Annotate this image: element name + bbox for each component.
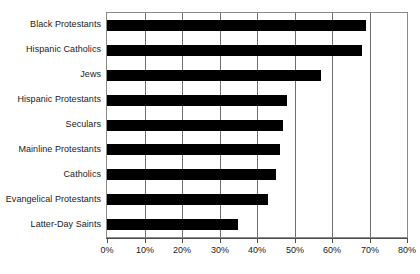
category-label: Seculars (0, 119, 101, 129)
category-label: Latter-Day Saints (0, 219, 101, 229)
bar-row (107, 187, 407, 212)
category-label: Hispanic Protestants (0, 94, 101, 104)
bar-row (107, 212, 407, 237)
x-axis-tick-label: 50% (275, 245, 315, 256)
bar (107, 169, 276, 180)
bar (107, 45, 362, 56)
x-axis-tick (370, 238, 371, 243)
x-axis-tick (407, 238, 408, 243)
bar-row (107, 63, 407, 88)
x-axis-tick (182, 238, 183, 243)
category-label: Hispanic Catholics (0, 44, 101, 54)
x-axis-tick-label: 10% (125, 245, 165, 256)
bar (107, 194, 268, 205)
x-axis-tick-label: 40% (237, 245, 277, 256)
bar-row (107, 113, 407, 138)
bar (107, 144, 280, 155)
x-axis-tick-label: 30% (200, 245, 240, 256)
bar-row (107, 38, 407, 63)
bar (107, 219, 238, 230)
x-axis-tick-label: 0% (87, 245, 127, 256)
x-axis-tick (107, 238, 108, 243)
category-label: Black Protestants (0, 19, 101, 29)
x-axis-tick (220, 238, 221, 243)
bar-row (107, 88, 407, 113)
category-label: Evangelical Protestants (0, 194, 101, 204)
x-axis-tick (257, 238, 258, 243)
bar (107, 95, 287, 106)
x-axis-tick-label: 80% (387, 245, 420, 256)
bar (107, 70, 321, 81)
bar-chart: Black Protestants Hispanic Catholics Jew… (0, 0, 420, 274)
x-axis-tick-label: 20% (162, 245, 202, 256)
x-axis-tick-label: 60% (312, 245, 352, 256)
plot-area (106, 12, 408, 238)
x-axis-tick-label: 70% (350, 245, 390, 256)
category-axis: Black Protestants Hispanic Catholics Jew… (0, 12, 101, 238)
x-axis-tick (332, 238, 333, 243)
bar-row (107, 13, 407, 38)
bar (107, 120, 283, 131)
bar (107, 20, 366, 31)
bar-row (107, 162, 407, 187)
category-label: Catholics (0, 169, 101, 179)
category-label: Mainline Protestants (0, 144, 101, 154)
bar-row (107, 137, 407, 162)
category-label: Jews (0, 69, 101, 79)
x-axis-tick (295, 238, 296, 243)
x-axis-tick (145, 238, 146, 243)
